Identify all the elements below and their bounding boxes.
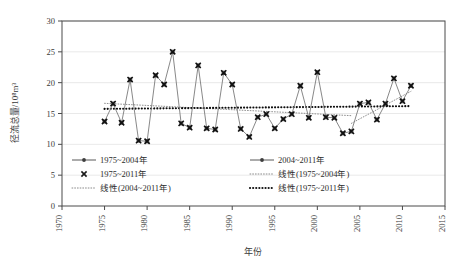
x-tick-label: 2000	[309, 215, 319, 232]
y-tick-label: 30	[47, 16, 56, 26]
x-tick-label: 2005	[352, 215, 362, 232]
chart-figure: 051015202530 197019751980198519901995200…	[0, 0, 469, 266]
legend-item-label: 线性(2004~2011年)	[100, 183, 171, 193]
y-axis-title: 径流总量/10⁸m³	[9, 83, 20, 144]
x-tick-label: 1980	[139, 215, 149, 232]
x-axis-title: 年份	[244, 246, 262, 257]
legend-item-label: 2004~2011年	[278, 155, 325, 165]
x-tick-label: 1985	[182, 215, 192, 232]
runoff-line-chart: 051015202530 197019751980198519901995200…	[0, 0, 469, 266]
y-tick-label: 0	[51, 201, 55, 211]
x-tick-label: 2010	[394, 215, 404, 232]
x-tick-label: 2015	[437, 215, 447, 232]
legend-item-label: 1975~2011年	[100, 169, 147, 179]
x-tick-label: 1970	[54, 215, 64, 232]
x-tick-label: 1995	[267, 215, 277, 232]
y-tick-label: 5	[51, 170, 55, 180]
x-tick-label: 1990	[224, 215, 234, 232]
y-tick-label: 25	[47, 47, 56, 57]
legend-item-label: 线性(1975~2011年)	[278, 183, 349, 193]
x-tick-label: 1975	[97, 215, 107, 232]
y-tick-label: 20	[47, 78, 56, 88]
legend-item-label: 1975~2004年	[100, 155, 148, 165]
legend-marker-circle-icon	[82, 158, 86, 162]
y-tick-label: 10	[47, 139, 56, 149]
y-tick-label: 15	[47, 109, 56, 119]
legend-item-label: 线性(1975~2004年)	[278, 169, 349, 179]
legend-marker-circle-icon	[260, 158, 264, 162]
